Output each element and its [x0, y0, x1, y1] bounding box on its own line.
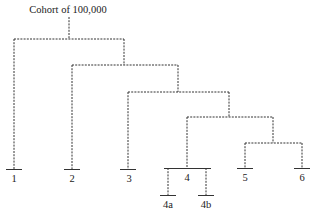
branch-level-4 — [187, 92, 273, 117]
branch-4: 4 4a 4b — [160, 117, 214, 210]
leaf-label-3: 3 — [126, 173, 131, 184]
leaf-label-2: 2 — [69, 173, 74, 184]
cohort-tree-diagram: Cohort of 100,000 1 2 3 4 4a — [0, 0, 314, 213]
leaf-label-5: 5 — [242, 172, 247, 183]
branch-5-6: 5 6 — [237, 117, 310, 183]
root-label: Cohort of 100,000 — [29, 4, 106, 15]
leaf-label-6: 6 — [299, 172, 304, 183]
branch-level-2: 2 — [64, 39, 178, 184]
branch-1: 1 — [6, 39, 22, 184]
root-connector — [14, 17, 124, 39]
leaf-label-1: 1 — [11, 173, 16, 184]
leaf-label-4b: 4b — [201, 199, 212, 210]
leaf-label-4a: 4a — [163, 199, 173, 210]
leaf-label-4: 4 — [184, 172, 190, 183]
branch-level-3: 3 — [120, 65, 229, 184]
